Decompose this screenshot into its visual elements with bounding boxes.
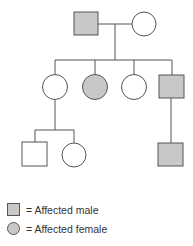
legend-label: = Affected male [26,204,98,216]
legend-item-affected-male: = Affected male [7,203,98,216]
circle-symbol-icon [7,222,20,235]
legend-label: = Affected female [26,223,107,235]
individual-III-2-female [62,143,86,167]
individual-II-1-female [43,75,68,100]
individual-II-3-female [122,75,147,100]
individual-III-3-affected-male [158,143,183,166]
individual-II-4-affected-male [159,75,184,98]
individual-III-1-male [22,142,47,166]
individual-II-2-affected-female [83,75,108,100]
individual-I-1-affected-male [74,12,98,35]
square-symbol-icon [7,203,20,216]
legend-item-affected-female: = Affected female [7,222,107,235]
individual-I-2-female [132,12,156,36]
